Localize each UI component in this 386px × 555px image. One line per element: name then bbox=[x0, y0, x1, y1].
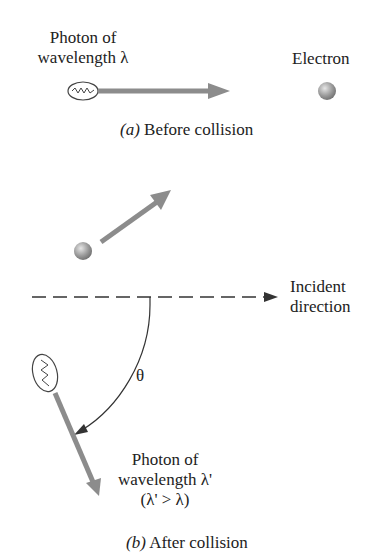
recoil-electron-icon bbox=[74, 242, 92, 260]
incident-photon-icon bbox=[68, 82, 98, 100]
incident-photon-label-line1: Photon of bbox=[28, 28, 138, 48]
incident-direction-line bbox=[32, 292, 278, 302]
electron-icon bbox=[318, 82, 336, 100]
scattered-photon-arrow bbox=[55, 393, 101, 496]
scattered-photon-label-line1: Photon of bbox=[100, 450, 230, 470]
scattered-photon-icon bbox=[28, 352, 61, 395]
scattered-photon-label-line2: wavelength λ' bbox=[100, 470, 230, 490]
incident-direction-label-line1: Incident bbox=[290, 277, 350, 297]
caption-b: (b) After collision bbox=[126, 533, 248, 553]
caption-a: (a) Before collision bbox=[120, 120, 253, 140]
caption-b-letter: (b) bbox=[126, 533, 146, 552]
electron-label: Electron bbox=[292, 49, 350, 69]
scattered-photon-label-line3: (λ' > λ) bbox=[100, 490, 230, 510]
caption-a-text: Before collision bbox=[140, 120, 253, 139]
angle-theta-label: θ bbox=[136, 366, 144, 386]
incident-photon-arrow bbox=[98, 83, 230, 99]
incident-direction-label-line2: direction bbox=[290, 297, 350, 317]
incident-direction-label: Incident direction bbox=[290, 277, 350, 317]
caption-b-text: After collision bbox=[146, 533, 248, 552]
incident-photon-label: Photon of wavelength λ bbox=[28, 28, 138, 68]
caption-a-letter: (a) bbox=[120, 120, 140, 139]
scattered-photon-label: Photon of wavelength λ' (λ' > λ) bbox=[100, 450, 230, 510]
incident-photon-label-line2: wavelength λ bbox=[28, 48, 138, 68]
recoil-electron-arrow bbox=[101, 190, 171, 242]
